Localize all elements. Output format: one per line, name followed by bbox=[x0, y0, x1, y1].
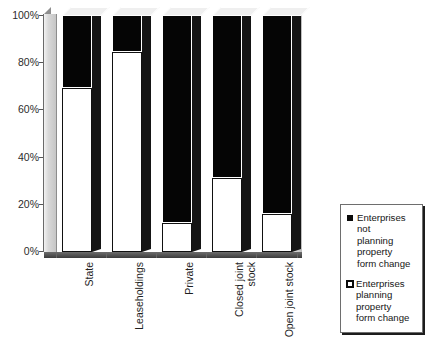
legend-item-planning: Enterprises planning property form chang… bbox=[346, 278, 418, 324]
bar-segment-planning bbox=[262, 214, 292, 252]
bar-top-face bbox=[212, 7, 260, 16]
x-label-private: Private bbox=[184, 262, 196, 345]
bar-segment-not-planning bbox=[162, 14, 192, 223]
legend-label-planning: Enterprises planning property form chang… bbox=[356, 278, 418, 324]
plot-area bbox=[44, 14, 302, 252]
bar-segment-planning bbox=[62, 88, 92, 252]
bar-container bbox=[44, 14, 302, 252]
bar-group-leaseholdings bbox=[112, 14, 142, 252]
bar-segment-not-planning bbox=[112, 14, 142, 52]
white-square-marker-icon bbox=[346, 280, 354, 288]
y-tick-label-40: 40% bbox=[18, 152, 39, 162]
bar-segment-planning bbox=[112, 52, 142, 252]
bar-top-face bbox=[162, 7, 210, 16]
y-tick-label-80: 80% bbox=[18, 57, 39, 67]
chart-wall-bevel bbox=[44, 7, 51, 14]
legend-item-not-planning: Enterprises not planning property form c… bbox=[346, 212, 418, 269]
x-label-closed-joint-stock: Closed joint stock bbox=[234, 262, 257, 345]
chart-legend: Enterprises not planning property form c… bbox=[340, 204, 423, 333]
stacked-bar-chart: 100% 80% 60% 40% 20% 0% bbox=[0, 0, 428, 345]
bar-segment-not-planning bbox=[62, 14, 92, 88]
bar-depth-side bbox=[192, 11, 201, 252]
bar-depth-side bbox=[242, 11, 251, 252]
bar-segment-planning bbox=[162, 223, 192, 252]
x-label-state: State bbox=[84, 262, 96, 345]
bar-depth-side bbox=[292, 11, 301, 252]
bar-group-private bbox=[162, 14, 192, 252]
bar-group-open-joint-stock bbox=[262, 14, 292, 252]
bar-top-face bbox=[62, 7, 110, 16]
y-tick-label-0: 0% bbox=[24, 246, 39, 256]
x-label-leaseholdings: Leaseholdings bbox=[134, 262, 146, 345]
y-tick-label-60: 60% bbox=[18, 104, 39, 114]
legend-label-not-planning: Enterprises not planning property form c… bbox=[357, 212, 418, 269]
bar-depth-side bbox=[92, 11, 101, 252]
y-tick-label-20: 20% bbox=[18, 199, 39, 209]
bar-depth-side bbox=[142, 11, 151, 252]
bar-segment-planning bbox=[212, 178, 242, 252]
bar-group-closed-joint-stock bbox=[212, 14, 242, 252]
bar-segment-not-planning bbox=[212, 14, 242, 178]
bar-top-face bbox=[112, 7, 160, 16]
y-tick-label-100: 100% bbox=[12, 10, 39, 20]
x-axis-labels: State Leaseholdings Private Closed joint… bbox=[0, 258, 330, 345]
bar-group-state bbox=[62, 14, 92, 252]
black-square-marker-icon bbox=[347, 215, 353, 221]
x-label-open-joint-stock: Open joint stock bbox=[284, 262, 296, 345]
y-axis: 100% 80% 60% 40% 20% 0% bbox=[0, 0, 44, 260]
bar-segment-not-planning bbox=[262, 14, 292, 214]
bar-top-face bbox=[262, 7, 310, 16]
